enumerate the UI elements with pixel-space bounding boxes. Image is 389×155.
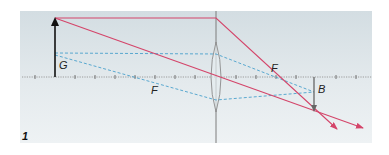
figure-number: 1: [22, 130, 28, 142]
lens-diagram: G F F B 1: [0, 0, 389, 155]
object-label: G: [59, 59, 68, 71]
image-label: B: [318, 83, 325, 95]
